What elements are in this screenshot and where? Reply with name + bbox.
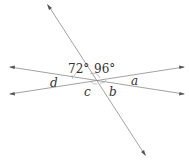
angle-label-72: 72° [68,62,89,76]
arrowhead-right-lower-icon [179,92,185,96]
arrowhead-top-icon [47,4,52,10]
arrowhead-right-upper-icon [179,66,185,70]
arrowhead-left-upper-icon [9,66,15,70]
angle-diagram: 72° 96° a b c d [0,0,189,165]
arrowhead-left-lower-icon [9,92,15,96]
angle-arc-c [91,82,97,84]
angle-label-a: a [131,74,138,88]
angle-label-d: d [50,76,58,90]
angle-label-c: c [84,85,91,99]
angle-label-b: b [109,85,117,99]
arrowhead-bottom-icon [141,150,146,156]
angle-label-96: 96° [94,62,115,76]
